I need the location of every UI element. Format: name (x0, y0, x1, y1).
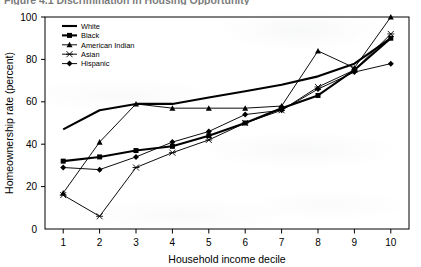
y-tick-label: 60 (26, 96, 38, 107)
y-tick-label: 20 (26, 181, 38, 192)
series-white (63, 38, 391, 129)
x-tick-label: 3 (133, 237, 139, 248)
series-line (63, 38, 391, 129)
marker-square (67, 33, 72, 38)
x-tick-label: 2 (97, 237, 103, 248)
y-tick-label: 40 (26, 139, 38, 150)
series-asian (60, 31, 395, 219)
marker-triangle (315, 48, 321, 54)
series-black (61, 36, 394, 164)
marker-diamond (60, 165, 66, 171)
y-axis-title: Homeownership rate (percent) (3, 52, 15, 194)
x-tick-label: 4 (170, 237, 176, 248)
marker-diamond (388, 61, 394, 67)
legend-label: Asian (81, 50, 100, 59)
homeownership-by-decile-chart: 02040608010012345678910Household income … (0, 0, 421, 267)
legend-label: Black (81, 31, 99, 40)
marker-square (134, 148, 139, 153)
x-axis-title: Household income decile (168, 253, 285, 265)
x-tick-label: 10 (385, 237, 397, 248)
y-tick-label: 100 (20, 12, 37, 23)
series-line (63, 34, 391, 216)
marker-diamond (133, 154, 139, 160)
chart-legend: WhiteBlackAmerican IndianAsianHispanic (62, 22, 134, 69)
marker-diamond (242, 112, 248, 118)
legend-label: American Indian (81, 41, 134, 50)
x-tick-label: 8 (315, 237, 321, 248)
figure-caption: Figure 4.1 Discrimination in Housing Opp… (4, 0, 304, 5)
legend-label: White (81, 22, 100, 31)
series-line (63, 38, 391, 161)
x-tick-label: 7 (279, 237, 285, 248)
y-tick-label: 80 (26, 54, 38, 65)
legend-label: Hispanic (81, 59, 110, 68)
x-tick-label: 5 (206, 237, 212, 248)
chart-container: 02040608010012345678910Household income … (0, 0, 421, 267)
marker-square (61, 159, 66, 164)
x-tick-label: 6 (242, 237, 248, 248)
x-tick-label: 1 (60, 237, 66, 248)
marker-square (97, 154, 102, 159)
marker-square (316, 93, 321, 98)
marker-diamond (97, 167, 103, 173)
y-tick-label: 0 (31, 224, 37, 235)
x-tick-label: 9 (352, 237, 358, 248)
marker-diamond (67, 61, 73, 67)
marker-square (388, 36, 393, 41)
